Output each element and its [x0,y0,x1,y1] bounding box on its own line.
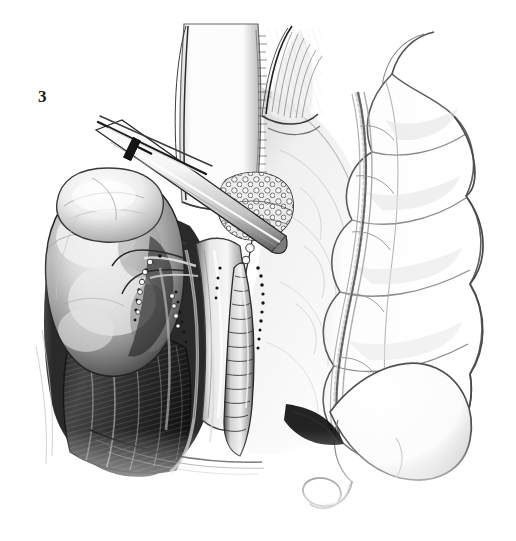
mesenteric-fan-region [262,26,322,135]
figure-number-label: 3 [38,88,47,105]
left-fade [0,150,52,480]
medical-illustration-figure: 3 [0,0,516,541]
bottom-fade [0,430,516,541]
adrenal-gland-region [57,168,164,242]
illustration-canvas [0,0,516,541]
